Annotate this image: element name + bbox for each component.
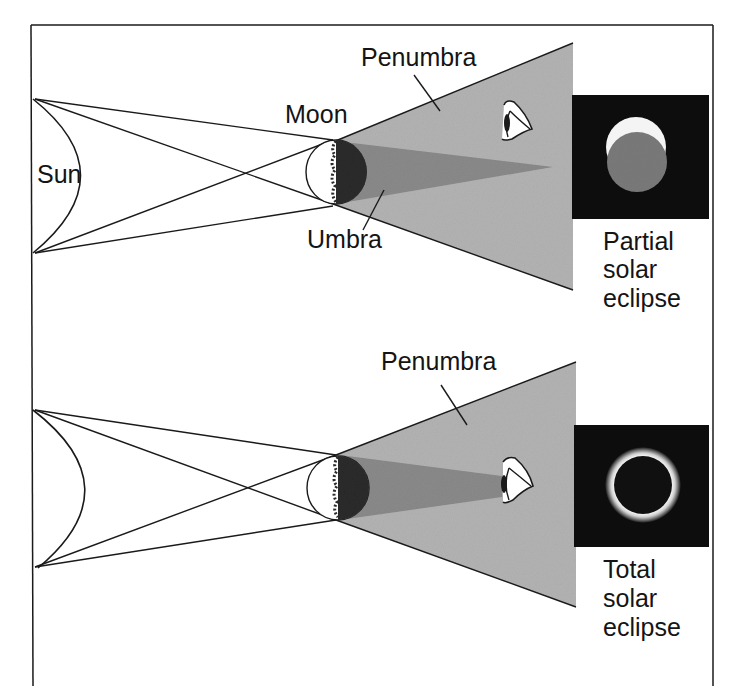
eclipse-diagram: Sun Moon Penumbra Umbra Partial solar ec… [0,0,737,686]
total-caption-line-2: solar [603,584,657,612]
penumbra-label: Penumbra [361,43,476,71]
partial-caption-line-1: Partial [603,227,674,255]
total-caption-line-1: Total [603,555,656,583]
sun-label: Sun [37,160,81,188]
partial-eclipse-inset [572,95,709,219]
moon [305,140,367,204]
moon-label: Moon [285,100,348,128]
partial-caption-line-3: eclipse [603,284,681,312]
penumbra-label: Penumbra [381,347,496,375]
total-eclipse-inset [574,425,709,547]
light-rays [35,410,336,567]
total-caption-line-3: eclipse [603,613,681,641]
sun-arc [33,410,85,568]
umbra-label: Umbra [307,225,382,253]
partial-caption-line-2: solar [603,255,657,283]
total-eclipse-panel: Penumbra Total solar eclipse [33,347,709,641]
partial-eclipse-panel: Sun Moon Penumbra Umbra Partial solar ec… [33,43,709,312]
moon [307,456,369,520]
